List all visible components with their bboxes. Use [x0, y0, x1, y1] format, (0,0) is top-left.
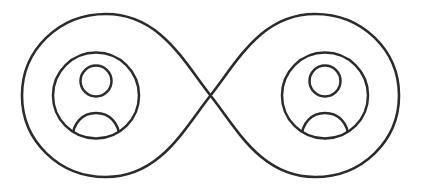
artboard — [0, 0, 421, 191]
infinity-two-people-icon — [0, 0, 421, 191]
